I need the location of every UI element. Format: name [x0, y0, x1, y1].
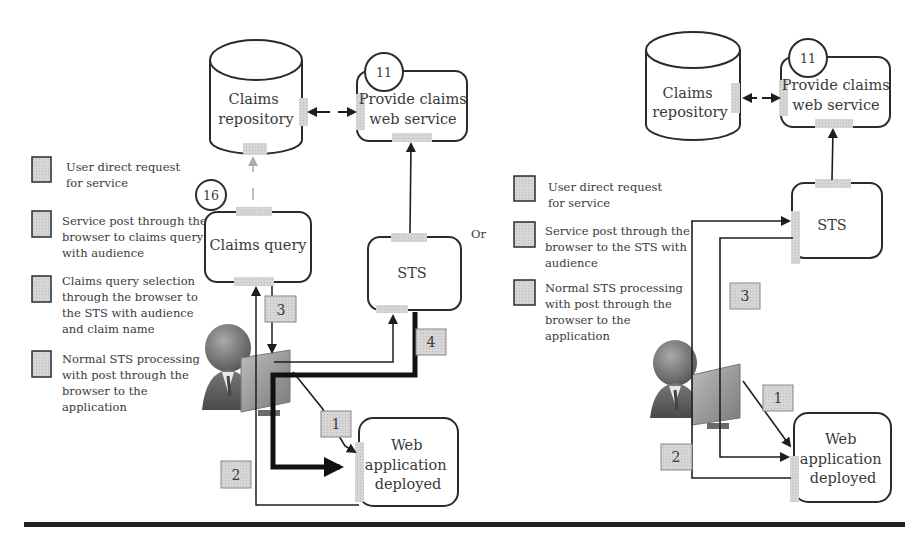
legend-swatch [32, 157, 51, 182]
step-4: 4 [427, 334, 436, 350]
port [815, 119, 853, 128]
legend-swatch [32, 351, 51, 377]
port [391, 233, 427, 242]
arrow-sts-to-service [410, 144, 411, 233]
claims-repository-node: Claims repository [210, 40, 308, 155]
step-1: 1 [774, 390, 783, 406]
legend-item-3: Normal STS processing with post through … [545, 281, 687, 343]
sts-node: STS [791, 179, 882, 264]
service-badge: 11 [376, 65, 392, 80]
step-2: 2 [672, 449, 681, 465]
web-app-node: Web application deployed [355, 418, 458, 506]
legend-item-1: User direct request for service [548, 180, 666, 210]
port [376, 305, 408, 313]
step-2: 2 [232, 467, 241, 483]
claims-repository-node: Claims repository [646, 32, 740, 140]
bottom-rule [24, 522, 905, 527]
sts-label: STS [397, 265, 427, 281]
legend-swatch [514, 280, 535, 305]
user-computer-icon [650, 340, 740, 429]
legend-item-1: User direct request for service [66, 160, 184, 190]
step-3: 3 [741, 288, 750, 304]
port [790, 456, 799, 502]
right-flow-lines [692, 221, 793, 478]
left-panel: User direct request for service Service … [32, 40, 471, 506]
claims-web-service-node: 11 Provide claims web service [779, 39, 894, 128]
query-badge: 16 [203, 188, 219, 203]
legend-item-3: Claims query selection through the brows… [62, 274, 201, 336]
port [243, 143, 267, 155]
legend-swatch [514, 222, 535, 247]
legend-swatch [32, 211, 51, 237]
claims-web-service-node: 11 Provide claims web service [356, 53, 471, 142]
legend-item-2: Service post through the browser to clai… [62, 214, 211, 260]
legend-item-2: Service post through the browser to the … [545, 224, 694, 270]
right-panel: User direct request for service Service … [514, 32, 894, 502]
sts-label: STS [817, 217, 847, 233]
legend-swatch [32, 276, 51, 302]
claims-query-label: Claims query [209, 237, 307, 253]
legend-left: User direct request for service Service … [32, 157, 211, 414]
step-3: 3 [277, 302, 286, 318]
port [234, 277, 274, 286]
or-separator: Or [471, 227, 486, 241]
port [299, 98, 308, 126]
step-1: 1 [332, 416, 341, 432]
arrow-sts-to-service [832, 130, 833, 180]
legend-item-4: Normal STS processing with post through … [62, 352, 204, 414]
port [815, 179, 851, 188]
service-badge: 11 [800, 51, 816, 66]
port [355, 442, 364, 502]
legend-right: User direct request for service Service … [514, 176, 694, 343]
port [392, 133, 432, 142]
web-app-node: Web application deployed [790, 413, 891, 502]
diagram-canvas: User direct request for service Service … [0, 0, 915, 540]
sts-node: STS [368, 233, 461, 313]
legend-swatch [514, 176, 535, 201]
port [236, 207, 272, 216]
port [731, 83, 740, 113]
user-computer-icon [202, 324, 290, 416]
